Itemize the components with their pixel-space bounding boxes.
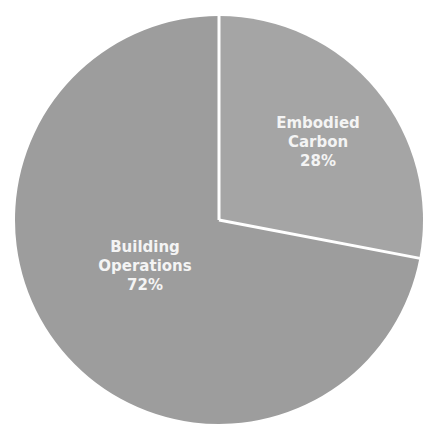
pie-slices <box>15 14 423 424</box>
slice-label-line: Embodied <box>276 114 360 132</box>
pie-chart: EmbodiedCarbon28%BuildingOperations72% <box>0 0 443 436</box>
slice-label-line: Building <box>110 238 180 256</box>
slice-label-line: 28% <box>300 152 336 170</box>
slice-label-line: Carbon <box>288 133 348 151</box>
slice-label-line: 72% <box>127 276 163 294</box>
slice-label-line: Operations <box>98 257 191 275</box>
